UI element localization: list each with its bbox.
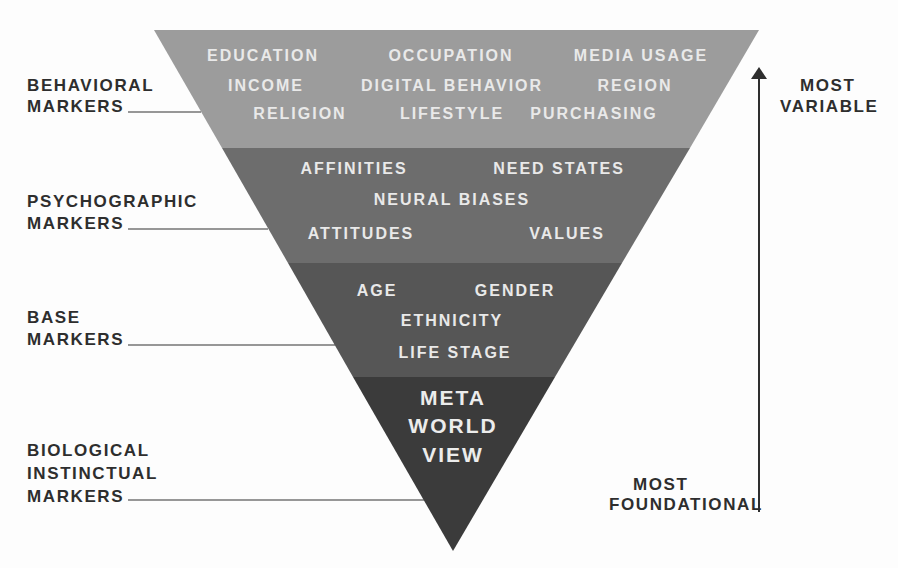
layer-item: PURCHASING	[530, 105, 658, 123]
layer-item: AFFINITIES	[300, 160, 407, 178]
layer-item: ATTITUDES	[308, 225, 415, 243]
biological-label-line2: INSTINCTUAL	[27, 464, 158, 483]
core-item: VIEW	[422, 443, 484, 467]
base-label-line1: BASE	[27, 308, 81, 327]
marker-pyramid-diagram: BEHAVIORAL MARKERS PSYCHOGRAPHIC MARKERS…	[0, 0, 898, 568]
layer-item: RELIGION	[253, 105, 346, 123]
biological-label-line1: BIOLOGICAL	[27, 441, 150, 460]
base-label-line2: MARKERS	[27, 330, 124, 349]
biological-label-line3: MARKERS	[27, 487, 124, 506]
axis-bottom-label-line1: MOST	[633, 475, 689, 494]
behavioral-label-line2: MARKERS	[27, 97, 124, 116]
layer-item: NEURAL BIASES	[374, 191, 530, 209]
psychographic-label-line2: MARKERS	[27, 214, 124, 233]
layer-item: LIFE STAGE	[398, 344, 511, 362]
layer-item: INCOME	[228, 77, 304, 95]
behavioral-label-line1: BEHAVIORAL	[27, 76, 154, 95]
axis-top-label-line2: VARIABLE	[780, 97, 878, 116]
layer-item: AGE	[357, 282, 398, 300]
arrow-up-icon	[751, 67, 767, 79]
layer-item: ETHNICITY	[401, 312, 503, 330]
layer-item: VALUES	[529, 225, 605, 243]
psychographic-label-line1: PSYCHOGRAPHIC	[27, 192, 198, 211]
axis-top-label-line1: MOST	[800, 76, 856, 95]
layer-item: REGION	[597, 77, 672, 95]
axis-bottom-label-line2: FOUNDATIONAL	[609, 495, 763, 514]
layer-item: LIFESTYLE	[400, 105, 504, 123]
core-item: WORLD	[408, 414, 497, 438]
layer-item: DIGITAL BEHAVIOR	[361, 77, 543, 95]
layer-item: MEDIA USAGE	[574, 47, 708, 65]
core-item: META	[420, 386, 486, 410]
layer-item: EDUCATION	[207, 47, 319, 65]
layer-item: NEED STATES	[493, 160, 625, 178]
layer-item: OCCUPATION	[388, 47, 513, 65]
layer-item: GENDER	[475, 282, 555, 300]
